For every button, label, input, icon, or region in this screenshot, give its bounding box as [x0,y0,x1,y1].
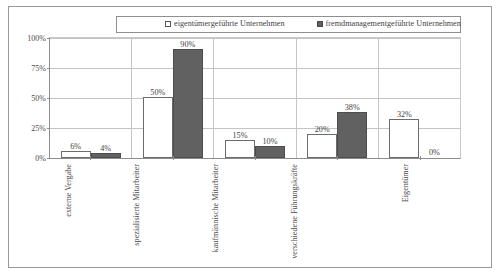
bar-owner-2[interactable] [225,140,255,158]
bar-management-1[interactable] [173,49,203,159]
legend-swatch-icon-owner [165,21,171,27]
ytick-label-100: 100% [27,34,46,43]
xcell-4: Eigentümer [379,160,461,265]
bar-value-management-2: 10% [262,137,277,146]
bar-wrap-owner-0: 6% [61,38,91,158]
legend-label-management: fremdmanagementgeführte Unternehmen [326,20,461,28]
bar-value-owner-3: 20% [315,125,330,134]
ytick-label-0: 0% [35,154,46,163]
bar-wrap-owner-3: 20% [307,38,337,158]
chart-x-axis-labels: externe Vergabe spezialisierte Mitarbeit… [49,160,461,265]
xlabel-verschiedene-fuehrungskraefte: verschiedene Führungskräfte [290,164,299,259]
bar-wrap-management-2: 10% [255,38,285,158]
xlabel-spezialisierte-mitarbeiter: spezialisierte Mitarbeiter [132,164,141,246]
xlabel-externe-vergabe: externe Vergabe [64,164,73,217]
bar-wrap-management-3: 38% [337,38,367,158]
bar-value-management-1: 90% [180,40,195,49]
ytick-mark-0 [47,158,50,159]
ytick-label-25: 25% [31,124,46,133]
bar-groups: 6% 4% 50% 90% [50,38,460,158]
legend-item-eigentuemergefuehrte: eigentümergeführte Unternehmen [165,20,285,28]
bar-owner-3[interactable] [307,134,337,158]
bar-wrap-owner-1: 50% [143,38,173,158]
xlabel-eigentuemer: Eigentümer [401,164,410,202]
xlabel-kaufmaennische-mitarbeiter: kaufmännische Mitarbeiter [211,164,220,252]
bar-owner-0[interactable] [61,151,91,158]
legend-item-fremdmanagementgefuehrte: fremdmanagementgeführte Unternehmen [317,20,461,28]
bar-group-kaufmaennische-mitarbeiter: 15% 10% [214,38,296,158]
bar-value-management-3: 38% [345,103,360,112]
bar-group-eigentuemer: 32% 0% [379,38,460,158]
bar-owner-4[interactable] [389,119,419,158]
bar-owner-1[interactable] [143,97,173,158]
xtick-mark-3 [337,156,338,160]
bar-management-3[interactable] [337,112,367,158]
bar-wrap-management-0: 4% [91,38,121,158]
bar-value-management-0: 4% [100,144,111,153]
xtick-mark-4 [420,156,421,160]
xtick-mark-2 [255,156,256,160]
bar-wrap-owner-2: 15% [225,38,255,158]
xcell-0: externe Vergabe [49,160,131,265]
bar-value-owner-2: 15% [232,131,247,140]
legend-swatch-icon-management [317,21,323,27]
bar-wrap-owner-4: 32% [389,38,419,158]
bar-group-externe-vergabe: 6% 4% [50,38,132,158]
bar-management-0[interactable] [91,153,121,158]
xtick-mark-0 [90,156,91,160]
bar-group-spezialisierte-mitarbeiter: 50% 90% [132,38,214,158]
bar-value-owner-1: 50% [150,88,165,97]
chart-figure: eigentümergeführte Unternehmen fremdmana… [8,6,492,268]
chart-plot-area: 100% 75% 50% 25% 0% 6% 4% 50% [49,37,461,159]
chart-legend: eigentümergeführte Unternehmen fremdmana… [116,16,461,33]
bar-wrap-management-4: 0% [419,38,449,158]
bar-group-verschiedene-fuehrungskraefte: 20% 38% [297,38,379,158]
bar-value-owner-0: 6% [70,142,81,151]
bar-wrap-management-1: 90% [173,38,203,158]
bar-value-management-4: 0% [429,148,440,157]
bar-management-2[interactable] [255,146,285,158]
legend-label-owner: eigentümergeführte Unternehmen [174,20,285,28]
xtick-mark-1 [173,156,174,160]
xcell-1: spezialisierte Mitarbeiter [131,160,213,265]
ytick-label-50: 50% [31,94,46,103]
xcell-3: verschiedene Führungskräfte [296,160,378,265]
ytick-label-75: 75% [31,64,46,73]
bar-value-owner-4: 32% [397,110,412,119]
xcell-2: kaufmännische Mitarbeiter [214,160,296,265]
